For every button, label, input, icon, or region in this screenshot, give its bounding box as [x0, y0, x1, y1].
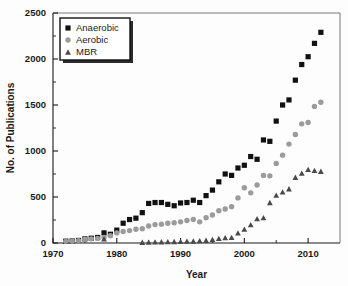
- data-point: [203, 215, 208, 220]
- data-point: [216, 236, 222, 241]
- data-point: [216, 179, 221, 184]
- legend-marker-anaerobic: [65, 25, 70, 30]
- data-point: [318, 169, 324, 174]
- data-point: [267, 139, 272, 144]
- legend: AnaerobicAerobicMBR: [60, 18, 133, 63]
- data-point: [120, 229, 125, 234]
- data-point: [254, 216, 260, 221]
- data-point: [274, 119, 279, 124]
- y-tick-label: 1500: [25, 99, 46, 110]
- x-tick-label: 2000: [234, 248, 255, 259]
- data-point: [178, 219, 183, 224]
- data-point: [286, 141, 291, 146]
- data-point: [312, 41, 317, 46]
- data-point: [121, 221, 126, 226]
- data-point: [254, 157, 259, 162]
- data-point: [191, 198, 196, 203]
- data-point: [140, 210, 145, 215]
- data-point: [108, 233, 113, 238]
- data-point: [248, 190, 253, 195]
- data-point: [191, 217, 196, 222]
- legend-label-mbr: MBR: [76, 46, 97, 57]
- data-point: [248, 154, 253, 159]
- data-point: [261, 137, 266, 142]
- data-point: [63, 239, 68, 244]
- data-point: [280, 152, 285, 157]
- data-point: [229, 204, 234, 209]
- data-point: [305, 167, 311, 172]
- data-point: [312, 168, 318, 173]
- data-point: [152, 200, 157, 205]
- series-aerobic: [63, 100, 324, 245]
- data-point: [159, 239, 165, 244]
- data-point: [274, 161, 279, 166]
- data-point: [292, 175, 298, 180]
- data-point: [165, 202, 170, 207]
- data-point: [197, 219, 202, 224]
- data-point: [165, 221, 170, 226]
- data-point: [280, 189, 286, 194]
- data-point: [299, 62, 304, 67]
- data-point: [184, 218, 189, 223]
- data-point: [146, 223, 151, 228]
- data-point: [267, 200, 273, 205]
- data-point: [171, 239, 177, 244]
- data-point: [184, 200, 189, 205]
- data-point: [178, 200, 183, 205]
- data-point: [178, 239, 184, 244]
- y-tick-label: 0: [41, 237, 46, 248]
- data-point: [172, 203, 177, 208]
- data-point: [159, 221, 164, 226]
- data-point: [152, 222, 157, 227]
- data-point: [140, 226, 145, 231]
- data-point: [280, 102, 285, 107]
- x-tick-label: 1990: [170, 248, 191, 259]
- data-point: [82, 237, 87, 242]
- data-point: [306, 54, 311, 59]
- data-point: [197, 200, 202, 205]
- y-tick-label: 2000: [25, 53, 46, 64]
- data-point: [261, 173, 266, 178]
- data-point: [216, 208, 221, 213]
- data-point: [229, 235, 235, 240]
- publications-scatter-chart: 0500100015002000250019701980199020002010…: [0, 0, 348, 286]
- y-tick-label: 1000: [25, 145, 46, 156]
- series-mbr: [101, 167, 324, 245]
- data-point: [293, 132, 298, 137]
- data-point: [286, 186, 292, 191]
- data-point: [89, 236, 94, 241]
- data-point: [197, 238, 203, 243]
- data-point: [229, 173, 234, 178]
- data-point: [203, 193, 208, 198]
- data-point: [312, 104, 317, 109]
- data-point: [318, 100, 323, 105]
- y-tick-label: 2500: [25, 7, 46, 18]
- data-point: [267, 173, 272, 178]
- data-point: [305, 120, 310, 125]
- data-point: [261, 215, 267, 220]
- data-point: [235, 195, 240, 200]
- data-point: [146, 239, 152, 244]
- legend-label-anaerobic: Anaerobic: [76, 22, 119, 33]
- data-point: [254, 182, 259, 187]
- data-point: [184, 238, 190, 243]
- data-point: [318, 30, 323, 35]
- x-tick-label: 1980: [106, 248, 127, 259]
- y-tick-label: 500: [30, 191, 46, 202]
- x-tick-label: 1970: [42, 248, 63, 259]
- data-point: [273, 192, 279, 197]
- data-point: [159, 200, 164, 205]
- data-point: [190, 238, 196, 243]
- data-point: [210, 212, 215, 217]
- data-point: [223, 206, 228, 211]
- data-point: [69, 238, 74, 243]
- data-point: [76, 238, 81, 243]
- x-tick-label: 2010: [298, 248, 319, 259]
- data-point: [299, 121, 304, 126]
- y-axis-title: No. of Publications: [5, 82, 16, 173]
- data-point: [95, 236, 100, 241]
- legend-label-aerobic: Aerobic: [76, 34, 108, 45]
- data-point: [133, 227, 138, 232]
- data-point: [127, 217, 132, 222]
- data-point: [299, 170, 305, 175]
